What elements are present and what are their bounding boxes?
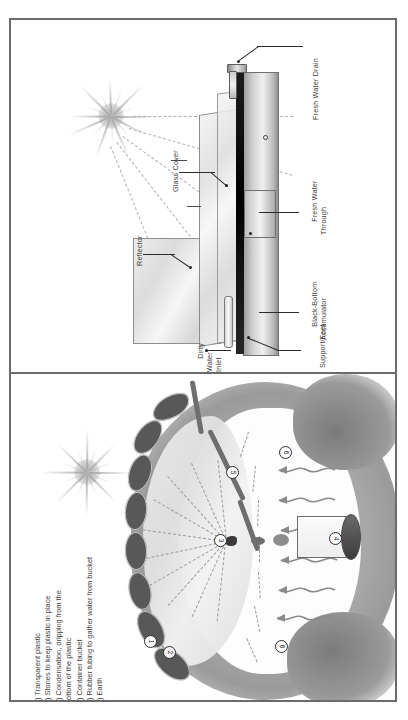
callout-6-bottom: 6 xyxy=(275,640,288,653)
label-support-feet: Support/Feet xyxy=(318,324,327,368)
condensation-droplet xyxy=(251,537,265,545)
leader-black-bottom xyxy=(259,312,299,313)
sun-ray xyxy=(80,86,112,118)
panel-solar-still: Fresh Water Drain Fresh Water Through Bl… xyxy=(11,20,395,372)
sun-ray xyxy=(43,472,87,474)
leader-fresh-water-drain xyxy=(257,46,303,47)
legend-item: 2) Stones to keep plastic in place xyxy=(43,557,53,700)
legend-item: 1) Transparent plastic xyxy=(33,557,43,700)
sun-ray xyxy=(71,116,111,118)
drain-pipe xyxy=(229,71,237,99)
callout-4: 4 xyxy=(329,532,342,545)
sun-icon xyxy=(41,426,133,518)
figure-canvas: Fresh Water Drain Fresh Water Through Bl… xyxy=(0,0,408,720)
sun-ray xyxy=(86,473,88,515)
leader-dot xyxy=(237,60,240,63)
fresh-water-trough xyxy=(244,190,276,238)
support-foot-marker xyxy=(263,135,268,140)
leader-fresh-water-through xyxy=(259,212,299,213)
leader-fresh-water-drain-arm xyxy=(239,46,259,61)
sun-ray xyxy=(86,472,115,501)
callout-3: 3 xyxy=(214,534,227,547)
label-fresh-water-through-line1: Fresh Water Through xyxy=(310,180,328,235)
label-reflector: Reflector xyxy=(135,235,144,266)
callout-1: 1 xyxy=(144,635,157,648)
legend-item: 3) Condensation, dripping from the xyxy=(54,557,64,700)
label-fresh-water-through: Fresh Water Through xyxy=(301,180,337,235)
sunray-dash xyxy=(116,142,203,253)
label-dirty-water-inlet-line1: Dirty Water Inlet xyxy=(196,343,223,372)
callout-2: 2 xyxy=(163,646,176,659)
label-fresh-water-drain: Fresh Water Drain xyxy=(311,58,320,120)
condensation-droplet xyxy=(273,534,289,546)
label-glass-cover: Glass Cover xyxy=(171,150,180,192)
label-dirty-water-inlet: Dirty Water Inlet xyxy=(187,343,232,372)
panel-earth-pit-still: 1) Transparent plastic 2) Stones to keep… xyxy=(11,374,395,700)
legend-item: 5) Rubber tubing to gather water from bu… xyxy=(85,557,95,700)
legend-item: 4) Container bucket xyxy=(75,557,85,700)
callout-5: 5 xyxy=(226,466,239,479)
dirty-water-inlet-tube xyxy=(224,296,233,348)
leader-support-feet xyxy=(277,350,301,351)
dimension-tick xyxy=(187,206,201,207)
callout-6-top: 6 xyxy=(279,446,292,459)
bucket-rim xyxy=(341,514,361,560)
legend-item: 6) Earth xyxy=(95,557,105,700)
legend-list: 1) Transparent plastic 2) Stones to keep… xyxy=(33,557,106,700)
black-bottom-accumulator xyxy=(236,72,244,354)
sun-ray xyxy=(87,472,131,474)
legend-item: bottom of the plastic xyxy=(64,557,74,700)
